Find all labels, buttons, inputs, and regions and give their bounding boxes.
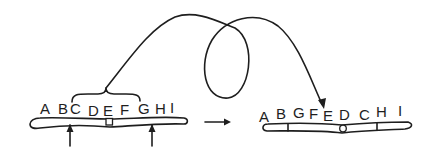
breakpoint-arrow-gh	[149, 124, 156, 146]
gene-label: G	[293, 104, 305, 121]
gene-label: H	[376, 103, 387, 120]
transition-arrow	[205, 119, 231, 126]
gene-label: B	[58, 100, 68, 117]
gene-label: F	[120, 101, 129, 118]
gene-label: E	[323, 107, 333, 124]
arrow-right-icon	[224, 119, 231, 126]
chromosome-before: A B C D E F G H I	[30, 99, 187, 146]
gene-label: I	[398, 102, 402, 119]
inversion-diagram: A B C D E F G H I A B G F E D C H I	[0, 0, 434, 151]
gene-label: A	[259, 108, 269, 125]
gene-label: B	[276, 105, 286, 122]
gene-label: D	[88, 102, 99, 119]
gene-label: A	[40, 100, 50, 117]
gene-label: F	[309, 105, 318, 122]
gene-label: D	[339, 106, 350, 123]
centromere-square-icon	[106, 119, 113, 126]
centromere-circle-icon	[340, 125, 347, 132]
loop-arrow	[106, 15, 326, 109]
gene-label: G	[138, 100, 150, 117]
gene-label: E	[103, 102, 113, 119]
gene-label: H	[155, 100, 166, 117]
chromosome-after: A B G F E D C H I	[259, 102, 412, 133]
gene-label: C	[359, 106, 370, 123]
segment-brace	[72, 88, 140, 102]
breakpoint-arrow-bc	[67, 124, 74, 146]
gene-label: C	[70, 100, 81, 117]
gene-label: I	[170, 99, 174, 116]
